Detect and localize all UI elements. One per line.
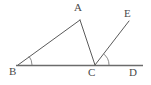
segment-AC [80, 20, 95, 65]
geometry-figure: A B C D E [0, 0, 151, 85]
vertex-label-D: D [129, 67, 137, 78]
vertex-label-E: E [124, 8, 131, 19]
angle-arc-B [29, 56, 32, 65]
angle-arc-C [104, 54, 109, 65]
vertex-label-B: B [9, 66, 16, 77]
segment-BA [18, 20, 80, 65]
vertex-label-A: A [74, 2, 82, 13]
vertex-label-C: C [88, 67, 95, 78]
segment-CE [95, 21, 129, 65]
